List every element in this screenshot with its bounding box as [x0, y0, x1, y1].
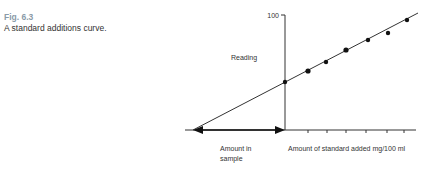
- sample-label-line2: sample: [220, 155, 243, 163]
- y-axis-label: Reading: [231, 54, 257, 62]
- sample-label-line1: Amount in: [220, 145, 252, 152]
- standard-additions-chart: 100 Reading Amount of standard added mg/…: [0, 0, 444, 171]
- x-axis-label: Amount of standard added mg/100 ml: [288, 145, 406, 153]
- arrow-right-icon: [275, 126, 285, 134]
- y-tick-label: 100: [267, 12, 279, 19]
